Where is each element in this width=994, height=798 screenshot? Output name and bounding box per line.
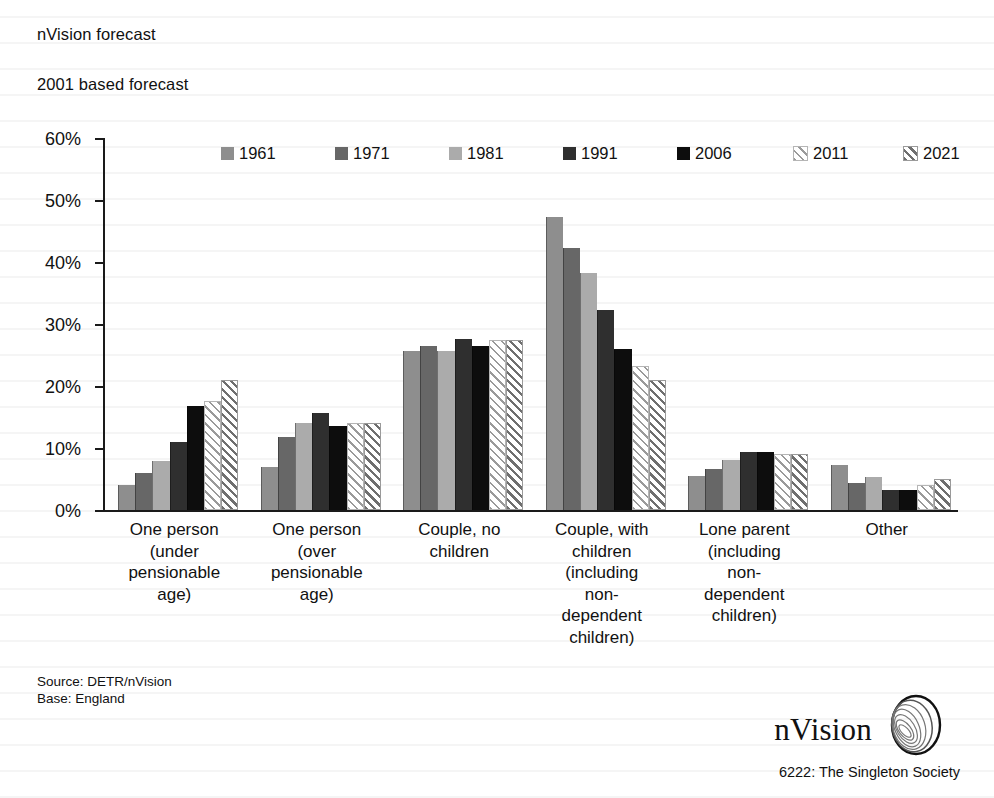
y-tick: 0% bbox=[95, 510, 104, 512]
bar-2011 bbox=[489, 340, 506, 510]
bar-1961 bbox=[118, 485, 135, 510]
bar-1971 bbox=[848, 483, 865, 510]
bar-2021 bbox=[649, 380, 666, 510]
x-axis-line bbox=[103, 510, 958, 512]
y-tick-label: 0% bbox=[55, 501, 81, 522]
bar-1991 bbox=[740, 452, 757, 510]
bar-groups bbox=[103, 138, 958, 510]
bar-1961 bbox=[831, 465, 848, 510]
bar-2021 bbox=[506, 340, 523, 510]
bar-2006 bbox=[472, 346, 489, 510]
category-label-line: (including bbox=[523, 562, 682, 584]
bar-2006 bbox=[757, 452, 774, 510]
category-label-line: Couple, with bbox=[523, 519, 682, 541]
category-label: One person(overpensionableage) bbox=[238, 519, 397, 605]
y-tick-label: 50% bbox=[45, 191, 81, 212]
bar-1991 bbox=[455, 339, 472, 510]
bar-2011 bbox=[774, 454, 791, 510]
bar-1971 bbox=[135, 473, 152, 510]
category-label: Lone parent(includingnon-dependentchildr… bbox=[665, 519, 824, 627]
bar-1991 bbox=[882, 490, 899, 510]
bar-group bbox=[546, 138, 666, 510]
brand-caption: 6222: The Singleton Society bbox=[779, 764, 960, 780]
bar-2021 bbox=[934, 479, 951, 510]
brand-block: nVision 6222: The Singleton Society bbox=[634, 694, 964, 784]
source-note: Source: DETR/nVision Base: England bbox=[37, 673, 172, 707]
y-tick-label: 20% bbox=[45, 377, 81, 398]
bar-1991 bbox=[597, 310, 614, 510]
category-label-line: pensionable bbox=[238, 562, 397, 584]
bar-2021 bbox=[791, 454, 808, 510]
bar-2011 bbox=[204, 401, 221, 510]
bar-1971 bbox=[705, 469, 722, 510]
bar-1961 bbox=[403, 351, 420, 510]
bar-1981 bbox=[865, 477, 882, 510]
y-tick-label: 10% bbox=[45, 439, 81, 460]
category-label: Other bbox=[808, 519, 967, 541]
chart-figure: nVision forecast 2001 based forecast 196… bbox=[0, 0, 994, 798]
bar-1961 bbox=[688, 476, 705, 510]
chart-title: nVision forecast bbox=[37, 25, 156, 44]
bar-2006 bbox=[899, 490, 916, 510]
y-tick-label: 30% bbox=[45, 315, 81, 336]
bar-1981 bbox=[722, 460, 739, 510]
nvision-rings-logo-icon bbox=[872, 694, 952, 760]
bar-1981 bbox=[295, 423, 312, 510]
category-label-line: (under bbox=[95, 541, 254, 563]
bar-1981 bbox=[152, 461, 169, 510]
y-tick-label: 60% bbox=[45, 129, 81, 150]
category-label-line: non- bbox=[665, 562, 824, 584]
bar-1981 bbox=[580, 273, 597, 510]
bar-1961 bbox=[261, 467, 278, 510]
source-line-1: Source: DETR/nVision bbox=[37, 673, 172, 690]
category-label-line: (over bbox=[238, 541, 397, 563]
bar-group bbox=[261, 138, 381, 510]
category-label: Couple, nochildren bbox=[380, 519, 539, 562]
bar-group bbox=[831, 138, 951, 510]
category-label-line: children) bbox=[665, 605, 824, 627]
category-label-line: Lone parent bbox=[665, 519, 824, 541]
bar-2006 bbox=[614, 349, 631, 510]
nvision-wordmark: nVision bbox=[774, 712, 872, 748]
category-label-line: pensionable bbox=[95, 562, 254, 584]
bar-group bbox=[403, 138, 523, 510]
bar-1971 bbox=[563, 248, 580, 510]
bar-group bbox=[688, 138, 808, 510]
chart-subtitle: 2001 based forecast bbox=[37, 75, 188, 94]
category-label-line: Couple, no bbox=[380, 519, 539, 541]
plot-area: 0%10%20%30%40%50%60% bbox=[103, 138, 958, 510]
category-label-line: One person bbox=[238, 519, 397, 541]
category-label-line: Other bbox=[808, 519, 967, 541]
category-label-line: age) bbox=[95, 584, 254, 606]
category-label: Couple, withchildren(includingnon-depend… bbox=[523, 519, 682, 648]
bar-group bbox=[118, 138, 238, 510]
bar-1971 bbox=[278, 437, 295, 510]
source-line-2: Base: England bbox=[37, 690, 172, 707]
bar-2006 bbox=[187, 406, 204, 510]
bar-2011 bbox=[632, 366, 649, 510]
category-label-line: (including bbox=[665, 541, 824, 563]
bar-2011 bbox=[347, 423, 364, 510]
category-label-line: One person bbox=[95, 519, 254, 541]
y-tick-label: 40% bbox=[45, 253, 81, 274]
category-label-line: children) bbox=[523, 627, 682, 649]
category-label-line: dependent bbox=[523, 605, 682, 627]
bar-2006 bbox=[329, 426, 346, 510]
bar-2021 bbox=[364, 423, 381, 510]
bar-2021 bbox=[221, 380, 238, 510]
bar-1971 bbox=[420, 346, 437, 510]
bar-1981 bbox=[437, 351, 454, 510]
bar-1961 bbox=[546, 217, 563, 510]
category-label-line: age) bbox=[238, 584, 397, 606]
bar-2011 bbox=[917, 485, 934, 510]
category-label: One person(underpensionableage) bbox=[95, 519, 254, 605]
category-label-line: children bbox=[380, 541, 539, 563]
category-label-line: non- bbox=[523, 584, 682, 606]
bar-1991 bbox=[312, 413, 329, 510]
category-label-line: dependent bbox=[665, 584, 824, 606]
bar-1991 bbox=[170, 442, 187, 510]
category-label-line: children bbox=[523, 541, 682, 563]
